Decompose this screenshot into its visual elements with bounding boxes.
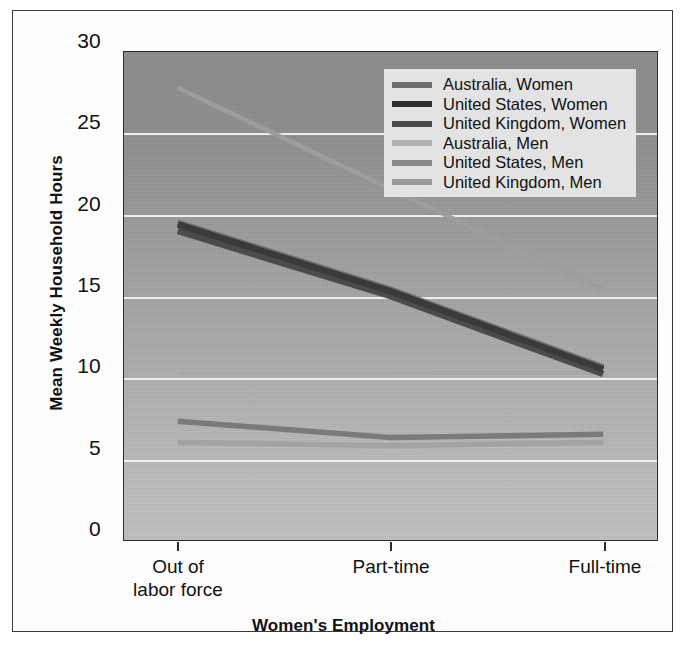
legend-swatch-australia-men [392,140,432,146]
legend-swatch-united-states-men [392,160,432,166]
legend-label-australia-women: Australia, Women [443,75,573,94]
legend-item-united-kingdom-women: United Kingdom, Women [392,114,628,134]
x-tick-label-line1: Out of [88,555,268,578]
series-line-united-kingdom-men-flat-upper [178,372,603,374]
legend-swatch-united-kingdom-women [392,121,432,127]
x-tick-full-time [604,542,606,551]
x-tick-label-out-of-labor-force: Out of labor force [88,555,268,601]
legend-swatch-australia-women [392,82,432,88]
y-tick-label-30: 30 [57,30,101,51]
y-tick-label-20: 20 [57,193,101,214]
y-tick-label-5: 5 [57,437,101,458]
figure-frame: Mean Weekly Household Hours 30 25 20 15 … [12,10,673,632]
legend-label-united-states-men: United States, Men [443,153,583,172]
chart-legend: Australia, Women United States, Women Un… [384,69,636,197]
legend-swatch-united-kingdom-men [392,179,432,185]
y-tick-label-15: 15 [57,274,101,295]
legend-item-australia-men: Australia, Men [392,134,628,154]
x-tick-out-of-labor-force [177,542,179,551]
legend-item-united-states-men: United States, Men [392,153,628,173]
legend-item-australia-women: Australia, Women [392,75,628,95]
series-line-united-states-men [178,421,603,437]
legend-label-united-kingdom-women: United Kingdom, Women [443,114,626,133]
x-tick-part-time [390,542,392,551]
y-tick-label-25: 25 [57,111,101,132]
x-tick-label-line2: labor force [88,578,268,601]
y-tick-label-10: 10 [57,355,101,376]
legend-item-united-states-women: United States, Women [392,95,628,115]
legend-label-australia-men: Australia, Men [443,134,548,153]
legend-label-united-states-women: United States, Women [443,95,608,114]
legend-item-united-kingdom-men: United Kingdom, Men [392,173,628,193]
x-tick-label-part-time: Part-time [301,555,481,578]
series-line-united-kingdom-women [178,231,603,374]
series-line-united-kingdom-men [178,442,603,445]
legend-swatch-united-states-women [392,101,432,107]
x-tick-label-line1: Full-time [515,555,687,578]
plot-area: Australia, Women United States, Women Un… [123,51,658,541]
legend-label-united-kingdom-men: United Kingdom, Men [443,173,602,192]
x-tick-label-full-time: Full-time [515,555,687,578]
y-tick-label-0: 0 [57,518,101,539]
x-tick-label-line1: Part-time [301,555,481,578]
x-axis-title: Women's Employment [13,616,674,636]
